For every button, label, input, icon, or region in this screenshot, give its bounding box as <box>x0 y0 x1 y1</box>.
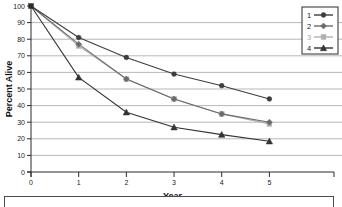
legend-label-3[interactable]: 3 <box>307 33 311 42</box>
series-1-marker-2 <box>124 55 129 60</box>
y-tick-label-70: 70 <box>17 52 25 59</box>
series-1-point-2 <box>124 55 129 60</box>
legend-label-1[interactable]: 1 <box>307 11 311 20</box>
caption-box <box>4 196 334 207</box>
series-1-point-5 <box>267 97 272 102</box>
series-line-4 <box>31 6 269 141</box>
series-1-point-1 <box>76 35 81 40</box>
y-tick-label-100: 100 <box>13 3 25 10</box>
series-4-marker-1 <box>75 74 81 80</box>
y-tick-label-30: 30 <box>17 119 25 126</box>
y-tick-label-90: 90 <box>17 19 25 26</box>
series-1-marker-1 <box>76 35 81 40</box>
y-tick-label-0: 0 <box>21 169 25 176</box>
x-tick-label-0: 0 <box>29 179 33 186</box>
x-tick-label-5: 5 <box>267 179 271 186</box>
x-tick-label-3: 3 <box>172 179 176 186</box>
legend-3-point-0 <box>321 35 326 40</box>
series-1-marker-3 <box>172 72 177 77</box>
y-tick-label-50: 50 <box>17 86 25 93</box>
series-4-point-1 <box>75 74 81 80</box>
series-origin-point-0 <box>29 4 34 9</box>
y-tick-label-40: 40 <box>17 102 25 109</box>
y-tick-label-60: 60 <box>17 69 25 76</box>
legend-label-4[interactable]: 4 <box>307 44 311 53</box>
series-line-1 <box>31 6 269 99</box>
legend-3-marker-0 <box>321 35 326 40</box>
series-line-3 <box>31 6 269 124</box>
y-axis-title: Percent Alive <box>4 61 14 118</box>
series-origin-marker-0 <box>29 4 34 9</box>
survival-curve-figure: 0102030405060708090100012345YearPercent … <box>0 0 342 207</box>
series-1-point-3 <box>172 72 177 77</box>
legend-label-2[interactable]: 2 <box>307 22 311 31</box>
x-tick-label-1: 1 <box>77 179 81 186</box>
series-1-point-4 <box>219 83 224 88</box>
legend-1-marker-0 <box>321 13 326 18</box>
x-tick-label-2: 2 <box>124 179 128 186</box>
y-tick-label-10: 10 <box>17 152 25 159</box>
legend-1-point-0 <box>321 13 326 18</box>
y-tick-label-20: 20 <box>17 135 25 142</box>
series-1-marker-4 <box>219 83 224 88</box>
line-chart: 0102030405060708090100012345YearPercent … <box>0 0 342 207</box>
series-line-2 <box>31 6 269 122</box>
y-tick-label-80: 80 <box>17 36 25 43</box>
series-1-marker-5 <box>267 97 272 102</box>
x-tick-label-4: 4 <box>220 179 224 186</box>
